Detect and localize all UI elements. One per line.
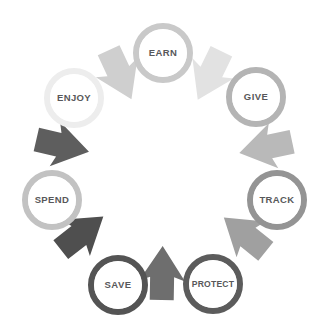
cycle-graphic: EARNGIVETRACKPROTECTSAVESPENDENJOY — [0, 0, 328, 335]
arrow-earn-give-head — [235, 119, 297, 175]
money-cycle-diagram: EARNGIVETRACKPROTECTSAVESPENDENJOY — [0, 0, 328, 335]
arrow-earn-give-icon — [235, 119, 297, 175]
node-spend-label: SPEND — [35, 194, 70, 205]
node-spend[interactable]: SPEND — [25, 173, 79, 227]
node-save[interactable]: SAVE — [91, 258, 145, 312]
node-give[interactable]: GIVE — [229, 70, 283, 124]
node-track[interactable]: TRACK — [250, 173, 304, 227]
node-enjoy[interactable]: ENJOY — [47, 71, 101, 125]
node-earn[interactable]: EARN — [136, 26, 190, 80]
node-give-label: GIVE — [244, 91, 268, 102]
node-enjoy-label: ENJOY — [57, 92, 91, 103]
node-track-label: TRACK — [259, 194, 294, 205]
node-protect[interactable]: PROTECT — [186, 257, 240, 311]
node-protect-label: PROTECT — [192, 279, 235, 289]
node-earn-label: EARN — [149, 47, 178, 58]
node-save-label: SAVE — [105, 279, 132, 290]
